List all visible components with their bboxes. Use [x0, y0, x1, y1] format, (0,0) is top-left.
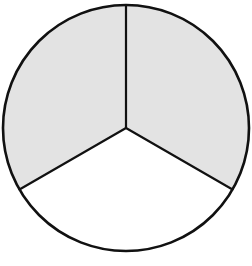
fraction-circle-diagram: 2/3 — [0, 0, 252, 266]
fraction-circle-svg — [0, 0, 252, 266]
